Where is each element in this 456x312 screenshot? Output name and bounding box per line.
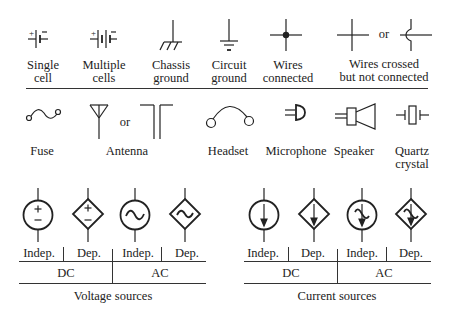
chassis-ground-icon [158,20,188,52]
wires-crossed-label-line2: but not connected [340,71,429,84]
current-sub-rule [244,261,431,262]
current-divider-1 [288,247,289,261]
wires-crossed-or: or [379,28,389,41]
voltage-ac-label: AC [151,267,168,280]
current-divider-3 [386,247,387,261]
wires-crossed-jump-icon [400,19,432,51]
microphone-label: Microphone [265,145,326,158]
multiple-cells-icon: + [90,28,122,50]
current-dc-label: DC [282,267,299,280]
row1-divider [26,88,428,89]
dc-dependent-current-source-icon [298,188,330,242]
svg-text:+: + [29,28,34,38]
single-cell-label-line2: cell [34,72,52,85]
svg-text:+: + [91,28,96,38]
chassis-ground-label-line2: ground [153,72,188,85]
voltage-dc-label: DC [57,267,74,280]
dc-dependent-voltage-source-icon [72,188,104,242]
voltage-group-rule [19,283,206,284]
wires-connected-label-line2: connected [263,72,314,85]
antenna-icon [88,104,110,140]
current-ac-dep-label: Dep. [399,247,423,260]
ac-independent-voltage-source-icon [119,188,151,242]
fuse-label: Fuse [30,145,54,158]
voltage-dc-indep-label: Indep. [23,247,55,260]
circuit-ground-label-line2: ground [211,72,246,85]
wires-connected-icon [270,19,302,51]
single-cell-icon: + [28,28,56,50]
dc-independent-voltage-source-icon [22,188,54,242]
voltage-divider-2 [112,249,113,283]
multiple-cells-label-line2: cells [93,72,116,85]
antenna-or: or [120,116,130,129]
current-dc-indep-label: Indep. [247,247,279,260]
ac-dependent-voltage-source-icon [169,188,201,242]
wires-crossed-icon [337,19,369,51]
antenna-alt-icon [140,104,174,140]
voltage-ac-dep-label: Dep. [175,247,199,260]
current-ac-label: AC [375,267,392,280]
ac-independent-current-source-icon [346,188,378,242]
headset-label: Headset [208,145,248,158]
voltage-sub-rule [19,261,206,262]
microphone-icon [285,104,307,122]
ac-dependent-current-source-icon [395,188,427,242]
quartz-crystal-icon [396,104,430,126]
voltage-ac-indep-label: Indep. [122,247,154,260]
current-sources-caption: Current sources [298,290,377,303]
voltage-divider-1 [63,247,64,261]
circuit-ground-icon [218,19,240,53]
voltage-divider-3 [161,247,162,261]
headset-icon [205,103,255,129]
voltage-sources-caption: Voltage sources [74,290,153,303]
speaker-icon [335,103,377,131]
fuse-icon [25,105,61,125]
antenna-label: Antenna [106,145,148,158]
current-divider-2 [337,249,338,283]
speaker-label: Speaker [334,145,374,158]
dc-independent-current-source-icon [248,188,280,242]
current-ac-indep-label: Indep. [346,247,378,260]
current-dc-dep-label: Dep. [301,247,325,260]
voltage-dc-dep-label: Dep. [77,247,101,260]
quartz-crystal-label-line2: crystal [395,158,428,171]
current-group-rule [244,283,431,284]
